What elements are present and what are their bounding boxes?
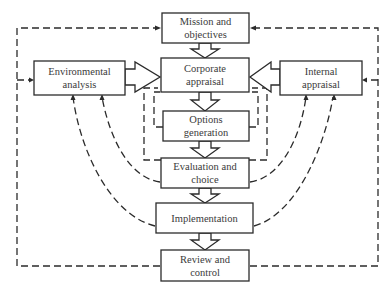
node-internal-appraisal: Internal appraisal [280, 61, 362, 95]
arrowhead-icon [362, 78, 367, 83]
node-label: control [190, 267, 220, 278]
arrowhead-icon [29, 78, 34, 83]
mission-to-corporate-arrow [191, 43, 219, 58]
node-label: Evaluation and [173, 161, 237, 172]
node-label: Implementation [171, 213, 238, 224]
node-label: Mission and [180, 16, 232, 27]
eval-to-env-arc [102, 97, 160, 182]
eval-to-corporate-left [144, 88, 161, 160]
node-options-generation: Options generation [163, 111, 249, 141]
node-label: analysis [63, 79, 97, 90]
node-label: Options [189, 114, 222, 125]
node-label: Corporate [184, 63, 226, 74]
evaluation-to-implementation-arrow [191, 188, 219, 203]
node-label: Internal [305, 66, 338, 77]
node-label: choice [191, 174, 219, 185]
implementation-to-review-arrow [191, 233, 219, 250]
node-label: Review and [180, 254, 231, 265]
node-evaluation-and-choice: Evaluation and choice [161, 158, 249, 188]
options-to-corporate-left [154, 92, 163, 127]
options-to-corporate-right [249, 92, 258, 127]
node-label: appraisal [186, 76, 224, 87]
node-corporate-appraisal: Corporate appraisal [161, 58, 249, 92]
arrowhead-icon [155, 26, 161, 31]
strategic-planning-diagram: Mission and objectives Corporate apprais… [0, 0, 392, 293]
impl-to-internal-arc [254, 97, 333, 226]
node-environmental-analysis: Environmental analysis [34, 61, 125, 95]
arrowhead-icon [250, 26, 256, 31]
node-review-and-control: Review and control [161, 250, 249, 281]
node-label: appraisal [302, 79, 340, 90]
impl-to-env-arc [73, 97, 155, 226]
corporate-to-options-arrow [191, 92, 219, 111]
node-implementation: Implementation [156, 203, 253, 233]
node-label: generation [184, 127, 229, 138]
options-to-evaluation-arrow [191, 141, 219, 158]
node-label: objectives [184, 29, 227, 40]
node-label: Environmental [48, 66, 110, 77]
node-mission-and-objectives: Mission and objectives [162, 13, 249, 43]
